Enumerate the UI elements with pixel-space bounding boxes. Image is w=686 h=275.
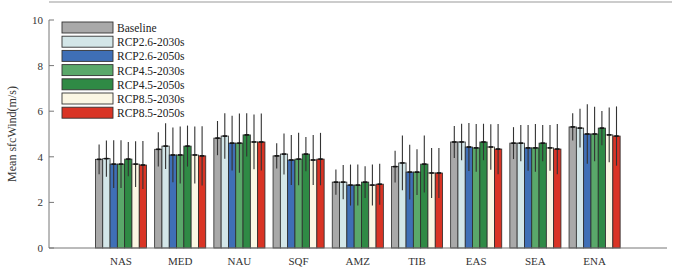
y-tick-label: 0 (38, 242, 44, 254)
x-category-label: AMZ (346, 255, 371, 267)
x-category-label: TIB (408, 255, 426, 267)
bar-group-eas (451, 123, 502, 248)
bar-chart: NASMEDNAUSQFAMZTIBEASSEAENA 0246810 Base… (0, 0, 686, 275)
legend-swatch (62, 36, 113, 47)
bar-group-amz (332, 164, 383, 248)
bar-group-nau (214, 113, 265, 248)
legend-swatch (62, 79, 113, 90)
legend-swatch (62, 93, 113, 104)
bar-group-sea (510, 124, 561, 248)
x-category-label: ENA (583, 255, 606, 267)
legend-label: Baseline (117, 22, 157, 34)
legend-swatch (62, 65, 113, 76)
y-tick-label: 10 (32, 14, 44, 26)
legend-label: RCP8.5-2050s (117, 107, 185, 119)
legend-swatch (62, 22, 113, 33)
bar (273, 156, 280, 248)
bar-series-group: NASMEDNAUSQFAMZTIBEASSEAENA (95, 104, 620, 267)
legend-label: RCP4.5-2050s (117, 79, 185, 91)
y-tick-label: 4 (38, 151, 44, 163)
bar-group-med (155, 123, 206, 248)
legend-label: RCP8.5-2030s (117, 93, 185, 105)
legend-swatch (62, 107, 113, 118)
legend-label: RCP2.6-2050s (117, 50, 185, 62)
y-axis-label: Mean sfcWind(m/s) (5, 86, 19, 182)
legend-swatch (62, 50, 113, 61)
y-tick-label: 2 (38, 196, 44, 208)
y-tick-label: 8 (38, 60, 44, 72)
x-category-label: MED (168, 255, 193, 267)
bar-group-ena (569, 104, 620, 248)
x-category-label: SQF (289, 255, 309, 267)
x-category-label: NAS (110, 255, 132, 267)
legend: BaselineRCP2.6-2030sRCP2.6-2050sRCP4.5-2… (62, 22, 185, 119)
bar-group-sqf (273, 133, 324, 248)
x-category-label: NAU (227, 255, 251, 267)
bar-group-tib (391, 136, 442, 248)
x-category-label: SEA (525, 255, 546, 267)
x-category-label: EAS (466, 255, 487, 267)
bar-group-nas (95, 140, 146, 248)
legend-label: RCP4.5-2030s (117, 65, 185, 77)
y-tick-label: 6 (38, 105, 44, 117)
bar (569, 127, 576, 248)
legend-label: RCP2.6-2030s (117, 36, 185, 48)
bar (598, 128, 605, 248)
